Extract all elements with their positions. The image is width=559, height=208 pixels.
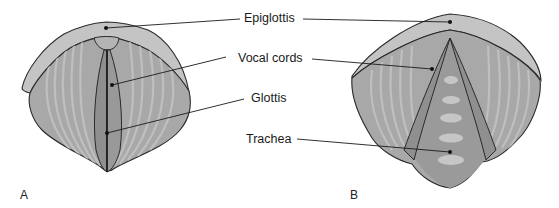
label-glottis: Glottis [251, 92, 286, 105]
label-epiglottis: Epiglottis [244, 12, 295, 25]
dot-vocal-cords-b [430, 67, 434, 71]
panel-a-larynx [22, 22, 190, 172]
panel-label-b: B [350, 189, 358, 201]
label-vocal-cords: Vocal cords [238, 52, 303, 65]
dot-epiglottis-a [104, 26, 108, 30]
panel-b-larynx [352, 14, 541, 188]
dot-trachea-b [448, 150, 452, 154]
dot-epiglottis-b [448, 20, 452, 24]
label-trachea: Trachea [246, 133, 291, 146]
dot-glottis-a [105, 131, 109, 135]
larynx-diagram: Epiglottis Vocal cords Glottis Trachea A… [0, 0, 559, 208]
dot-vocal-cords-a [110, 83, 114, 87]
panel-label-a: A [20, 189, 28, 201]
